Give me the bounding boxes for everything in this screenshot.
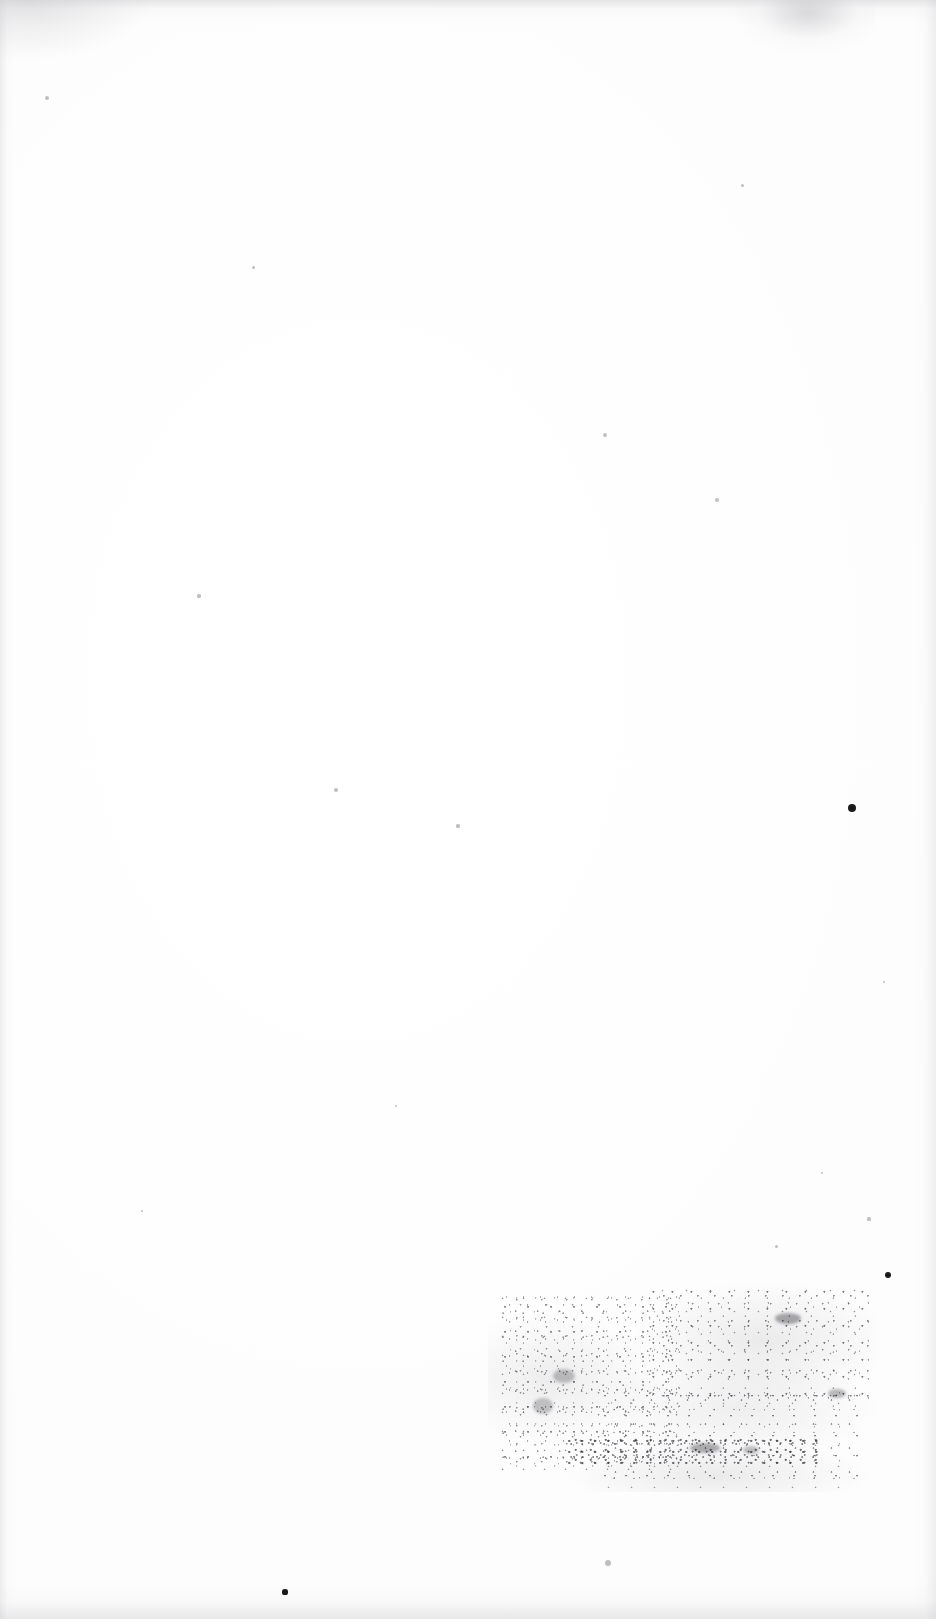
ink-speck: [741, 184, 744, 187]
ink-speck: [197, 594, 200, 597]
ink-speck: [775, 1245, 778, 1248]
ink-speck: [867, 1217, 870, 1220]
paper-background: [0, 0, 936, 1619]
ink-speck: [605, 1560, 611, 1566]
ink-speck: [456, 824, 459, 827]
ink-speck: [252, 266, 255, 269]
scanned-page: [0, 0, 936, 1619]
ink-speck: [603, 433, 607, 437]
ink-speck: [715, 498, 719, 502]
ink-speck: [334, 788, 338, 792]
ink-speck: [282, 1589, 287, 1594]
